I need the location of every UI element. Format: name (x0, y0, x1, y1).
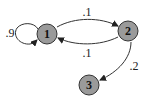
node-1-label: 1 (44, 27, 50, 41)
node-2-label: 2 (125, 24, 131, 38)
edge-2-to-1 (58, 37, 118, 44)
edge-label-2-3: .2 (130, 59, 139, 73)
node-3-label: 3 (86, 78, 92, 92)
edge-label-2-1: .1 (83, 46, 92, 60)
node-3: 3 (79, 75, 99, 95)
edge-label-1-1: .9 (6, 26, 15, 40)
node-1: 1 (37, 24, 57, 44)
edge-2-to-3 (100, 42, 131, 80)
node-2: 2 (118, 21, 138, 41)
edge-1-to-1 (15, 24, 38, 44)
edge-label-1-2: .1 (83, 5, 92, 19)
markov-diagram: .9 .1 .1 .2 1 2 3 (0, 0, 148, 104)
edge-1-to-2 (57, 19, 118, 27)
